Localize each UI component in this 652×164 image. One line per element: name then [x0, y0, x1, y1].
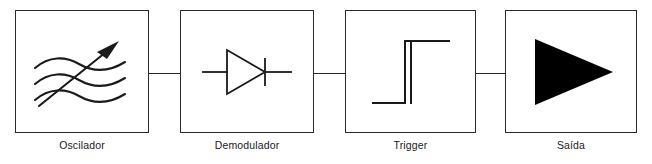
block-stage-oscilador: Oscilador — [15, 10, 149, 133]
block-label-demodulador: Demodulador — [180, 139, 314, 151]
connector-trigger-to-saida — [476, 73, 505, 74]
block-label-saida: Saída — [505, 139, 637, 151]
block-stage-trigger: Trigger — [345, 10, 476, 133]
block-label-trigger: Trigger — [345, 139, 476, 151]
connector-oscilador-to-demodulador — [149, 73, 180, 74]
block-box-demodulador[interactable] — [180, 10, 314, 133]
block-box-saida[interactable] — [505, 10, 637, 133]
block-diagram: Oscilador Demodulador — [0, 0, 652, 164]
block-box-trigger[interactable] — [345, 10, 476, 133]
block-stage-demodulador: Demodulador — [180, 10, 314, 133]
block-label-oscilador: Oscilador — [15, 139, 149, 151]
block-stage-saida: Saída — [505, 10, 637, 133]
connector-demodulador-to-trigger — [314, 73, 345, 74]
block-box-oscilador[interactable] — [15, 10, 149, 133]
